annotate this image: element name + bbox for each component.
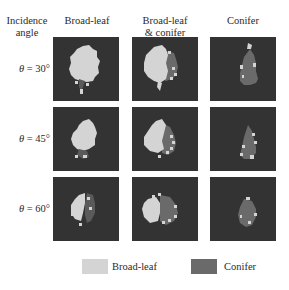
panel-conifer-45 [210, 107, 276, 171]
panel-conifer-30 [210, 37, 276, 101]
column-header-broad-leaf-conifer: Broad-leaf & conifer [130, 15, 200, 39]
panel-broad-leaf-conifer-45 [132, 107, 198, 171]
panel-broad-leaf-conifer-60 [132, 177, 198, 241]
panel-broad-leaf-30 [53, 37, 119, 101]
row-label-60: θ = 60° [2, 203, 50, 214]
panel-broad-leaf-conifer-30 [132, 37, 198, 101]
mixed-crown-image [132, 37, 198, 101]
equals-sign: = [24, 63, 35, 74]
row-header-line2: angle [2, 27, 52, 39]
conifer-crown-image [210, 177, 276, 241]
column-header-conifer: Conifer [210, 15, 276, 27]
column-header-text: Broad-leaf [56, 15, 118, 27]
angle-value: 60° [35, 203, 50, 214]
legend-swatch-broad-leaf [82, 259, 108, 274]
row-label-30: θ = 30° [2, 63, 50, 74]
legend-label-conifer: Conifer [224, 259, 256, 274]
angle-value: 30° [35, 63, 50, 74]
legend-label-broad-leaf: Broad-leaf [112, 259, 157, 274]
legend-swatch-conifer [191, 259, 217, 274]
angle-value: 45° [35, 133, 50, 144]
column-header-text: Conifer [210, 15, 276, 27]
mixed-crown-image [132, 177, 198, 241]
equals-sign: = [24, 133, 35, 144]
row-header-label: Incidence angle [2, 15, 52, 39]
column-header-broad-leaf: Broad-leaf [56, 15, 118, 27]
broad-leaf-crown-image [53, 37, 119, 101]
panel-broad-leaf-60 [53, 177, 119, 241]
column-header-text: Broad-leaf [130, 15, 200, 27]
broad-leaf-crown-image [53, 107, 119, 171]
conifer-crown-image [210, 37, 276, 101]
mixed-crown-image [132, 107, 198, 171]
conifer-crown-image [210, 107, 276, 171]
panel-broad-leaf-45 [53, 107, 119, 171]
row-label-45: θ = 45° [2, 133, 50, 144]
row-header-line1: Incidence [2, 15, 52, 27]
equals-sign: = [24, 203, 35, 214]
broad-leaf-crown-image [53, 177, 119, 241]
panel-conifer-60 [210, 177, 276, 241]
